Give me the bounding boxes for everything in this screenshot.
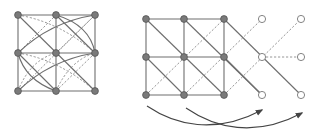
right-open-node	[297, 53, 304, 60]
left-filled-node	[15, 50, 22, 57]
left-filled-node	[92, 12, 99, 19]
left-filled-node	[53, 12, 60, 19]
lattice-diagram	[0, 0, 321, 140]
left-filled-node	[53, 88, 60, 95]
right-filled-node	[143, 92, 150, 99]
right-open-node	[297, 15, 304, 22]
right-filled-node	[143, 16, 150, 23]
left-filled-node	[92, 50, 99, 57]
left-filled-node	[15, 12, 22, 19]
right-open-node	[297, 91, 304, 98]
right-filled-node	[143, 54, 150, 61]
curved-arrow	[147, 106, 262, 125]
right-filled-node	[181, 54, 188, 61]
right-filled-node	[221, 54, 228, 61]
right-filled-node	[221, 16, 228, 23]
shift-arrows	[147, 106, 302, 128]
right-filled-node	[181, 16, 188, 23]
left-filled-node	[92, 88, 99, 95]
left-filled-node	[15, 88, 22, 95]
right-open-node	[258, 53, 265, 60]
right-open-node	[258, 91, 265, 98]
right-filled-node	[181, 92, 188, 99]
left-toroidal-grid	[15, 12, 99, 95]
left-filled-node	[53, 50, 60, 57]
right-unrolled-grid	[143, 15, 305, 98]
right-filled-node	[221, 92, 228, 99]
right-open-node	[258, 15, 265, 22]
